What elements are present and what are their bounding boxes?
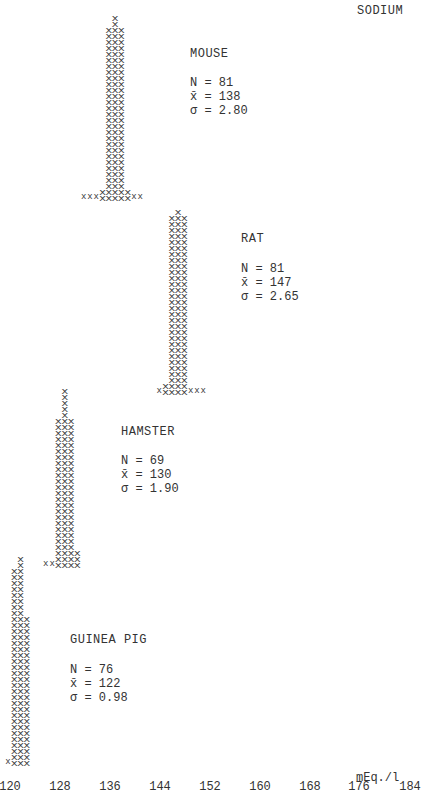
histogram-mark: X — [181, 228, 188, 235]
histogram-mark: X — [23, 755, 30, 762]
histogram-mark: X — [17, 587, 24, 594]
guinea-pig-label: GUINEA PIG — [70, 633, 147, 647]
histogram-mark: X — [68, 521, 75, 528]
histogram-mark: X — [17, 557, 24, 564]
histogram-mark: X — [118, 58, 125, 65]
histogram-mark: X — [68, 515, 75, 522]
histogram-mark: X — [181, 378, 188, 385]
histogram-mark: X — [118, 172, 125, 179]
histogram-mark: X — [118, 100, 125, 107]
hamster-mean: x̄ = 130 — [121, 468, 171, 482]
histogram-mark: X — [23, 749, 30, 756]
histogram-mark: X — [23, 761, 30, 768]
histogram-mark: X — [118, 160, 125, 167]
rat-n: N = 81 — [241, 262, 284, 276]
histogram-mark: X — [181, 366, 188, 373]
histogram-mark: X — [181, 336, 188, 343]
histogram-mark: X — [181, 360, 188, 367]
histogram-mark: X — [23, 641, 30, 648]
histogram-mark: X — [23, 713, 30, 720]
histogram-mark: X — [118, 148, 125, 155]
rat-label: RAT — [241, 232, 264, 246]
histogram-mark: X — [23, 677, 30, 684]
histogram-mark: X — [23, 701, 30, 708]
rat-mean: x̄ = 147 — [241, 276, 291, 290]
histogram-mark: X — [68, 455, 75, 462]
histogram-mark: X — [181, 294, 188, 301]
histogram-mark: X — [68, 539, 75, 546]
histogram-mark: X — [181, 264, 188, 271]
histogram-mark: X — [68, 497, 75, 504]
histogram-mark: X — [181, 288, 188, 295]
histogram-mark: X — [17, 605, 24, 612]
histogram-mark: X — [23, 689, 30, 696]
histogram-mark: X — [181, 282, 188, 289]
histogram-mark: X — [68, 425, 75, 432]
histogram-mark: X — [61, 395, 68, 402]
histogram-mark: X — [112, 16, 119, 23]
histogram-mark: X — [74, 551, 81, 558]
histogram-mark: X — [118, 40, 125, 47]
x-tick-144: 144 — [149, 780, 171, 794]
histogram-mark: X — [23, 617, 30, 624]
histogram-mark: X — [23, 737, 30, 744]
histogram-mark: X — [23, 659, 30, 666]
histogram-mark: X — [118, 34, 125, 41]
x-tick-160: 160 — [249, 780, 271, 794]
histogram-mark: X — [118, 28, 125, 35]
hamster-label: HAMSTER — [121, 425, 175, 439]
histogram-mark: X — [23, 707, 30, 714]
histogram-mark: X — [181, 240, 188, 247]
mouse-n: N = 81 — [190, 76, 233, 90]
x-tick-136: 136 — [99, 780, 121, 794]
histogram-mark: X — [17, 563, 24, 570]
x-tick-176: 176 — [348, 780, 370, 794]
histogram-mark: X — [23, 653, 30, 660]
histogram-mark: X — [23, 731, 30, 738]
histogram-mark: X — [68, 473, 75, 480]
histogram-mark: X — [118, 82, 125, 89]
histogram-mark: X — [118, 106, 125, 113]
histogram-mark: x — [137, 192, 144, 203]
histogram-mark: X — [23, 635, 30, 642]
histogram-mark: X — [118, 130, 125, 137]
x-tick-152: 152 — [199, 780, 221, 794]
chart-title: SODIUM — [357, 4, 403, 18]
histogram-mark: X — [68, 431, 75, 438]
histogram-mark: X — [118, 94, 125, 101]
histogram-mark: X — [181, 306, 188, 313]
histogram-mark: X — [68, 449, 75, 456]
histogram-mark: X — [68, 491, 75, 498]
histogram-mark: X — [181, 354, 188, 361]
histogram-mark: X — [68, 467, 75, 474]
histogram-mark: X — [118, 142, 125, 149]
histogram-mark: X — [181, 222, 188, 229]
histogram-mark: X — [17, 575, 24, 582]
histogram-mark: X — [23, 719, 30, 726]
histogram-mark: X — [23, 665, 30, 672]
sodium-histogram-chart: SODIUM xxxXXXXXXXXXXXXXXXXXXXXXXXXXXXXXX… — [0, 0, 424, 802]
histogram-mark: X — [68, 509, 75, 516]
histogram-mark: X — [118, 118, 125, 125]
histogram-mark: X — [181, 276, 188, 283]
histogram-mark: X — [23, 647, 30, 654]
mouse-label: MOUSE — [190, 47, 229, 61]
rat-sd: σ = 2.65 — [241, 290, 299, 304]
histogram-mark: X — [23, 695, 30, 702]
guinea-pig-n: N = 76 — [70, 663, 113, 677]
histogram-mark: X — [118, 70, 125, 77]
histogram-mark: X — [181, 270, 188, 277]
histogram-mark: X — [118, 76, 125, 83]
histogram-mark: X — [17, 581, 24, 588]
histogram-mark: X — [74, 563, 81, 570]
histogram-mark: X — [68, 437, 75, 444]
x-tick-184: 184 — [399, 780, 421, 794]
histogram-mark: X — [118, 112, 125, 119]
histogram-mark: X — [181, 258, 188, 265]
x-tick-120: 120 — [0, 780, 21, 794]
mouse-sd: σ = 2.80 — [190, 104, 248, 118]
histogram-mark: X — [181, 234, 188, 241]
histogram-mark: X — [23, 683, 30, 690]
guinea-pig-mean: x̄ = 122 — [70, 677, 120, 691]
histogram-mark: X — [68, 479, 75, 486]
